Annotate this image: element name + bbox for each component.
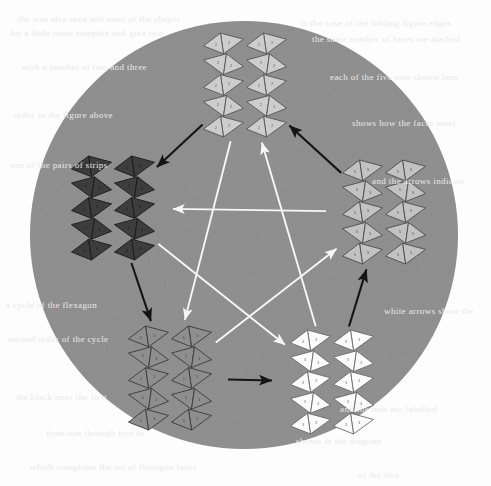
arrow-bottom-left-to-bottom-right xyxy=(228,379,272,380)
pentagon-flexagon-diagram: 2222222222222222222244444444444444444444… xyxy=(0,0,491,486)
figure-root: 2222222222222222222244444444444444444444… xyxy=(0,0,491,486)
